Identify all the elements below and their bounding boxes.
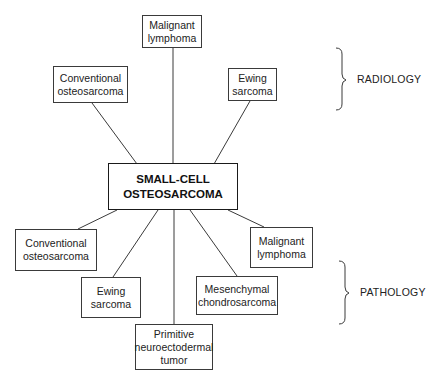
pathology-label: PATHOLOGY [360, 286, 426, 298]
node-text: lymphoma [148, 32, 196, 45]
radiology-label: RADIOLOGY [357, 73, 421, 85]
node-text: Conventional [60, 72, 121, 85]
connector-pathology-mesenchymal-chondrosarcoma [190, 210, 237, 276]
node-text: Primitive [154, 328, 194, 341]
node-text: sarcoma [232, 85, 272, 98]
node-text: chondrosarcoma [198, 296, 276, 309]
node-pathology-mesenchymal-chondrosarcoma: Mesenchymal chondrosarcoma [196, 276, 278, 315]
node-pathology-conventional-osteosarcoma: Conventional osteosarcoma [15, 229, 97, 271]
pathology-brace-icon [339, 261, 349, 324]
connector-pathology-ewing-sarcoma [113, 210, 158, 277]
node-text: Ewing [238, 72, 267, 85]
node-text: sarcoma [91, 298, 131, 311]
node-text: Malignant [149, 19, 195, 32]
connector-radiology-ewing-sarcoma [214, 101, 250, 164]
connector-radiology-conventional-osteosarcoma [92, 103, 137, 164]
node-text: Mesenchymal [205, 283, 270, 296]
node-pathology-ewing-sarcoma: Ewing sarcoma [81, 277, 141, 318]
node-text: neuroectodermal [135, 341, 214, 354]
center-line-2: OSTEOSARCOMA [123, 187, 223, 202]
node-pathology-pnet: Primitive neuroectodermal tumor [135, 324, 213, 370]
node-text: Conventional [25, 237, 86, 250]
node-text: lymphoma [257, 248, 305, 261]
connector-pathology-conventional-osteosarcoma [78, 210, 117, 229]
connector-pathology-malignant-lymphoma [228, 210, 264, 227]
node-radiology-ewing-sarcoma: Ewing sarcoma [228, 68, 277, 101]
node-text: Ewing [97, 285, 126, 298]
node-text: tumor [161, 354, 188, 367]
node-text: Malignant [259, 235, 305, 248]
node-text: osteosarcoma [58, 85, 124, 98]
node-radiology-malignant-lymphoma: Malignant lymphoma [142, 15, 202, 48]
node-radiology-conventional-osteosarcoma: Conventional osteosarcoma [53, 66, 128, 103]
node-text: osteosarcoma [23, 250, 89, 263]
node-pathology-malignant-lymphoma: Malignant lymphoma [250, 227, 313, 268]
center-node-small-cell-osteosarcoma: SMALL-CELL OSTEOSARCOMA [108, 163, 238, 210]
radiology-brace-icon [336, 48, 346, 110]
center-line-1: SMALL-CELL [136, 172, 209, 187]
